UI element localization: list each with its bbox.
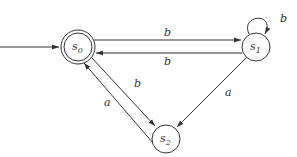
edge-s1-self-loop — [248, 18, 268, 34]
state-s0: s0 — [61, 30, 95, 64]
state-s2-subscript: 2 — [165, 138, 171, 147]
state-s0-subscript: 0 — [78, 46, 83, 55]
edge-s2-s0-label: a — [104, 96, 111, 109]
edge-s0-s1-label: b — [164, 26, 171, 39]
edge-s0-s2-label: b — [134, 77, 141, 90]
fsm-diagram: b b b b a a s0 s1 s2 — [0, 0, 297, 157]
edge-s1-s2 — [177, 57, 247, 127]
state-s1: s1 — [242, 33, 270, 61]
state-s1-subscript: 1 — [256, 46, 261, 55]
state-s2: s2 — [152, 125, 180, 153]
edge-s2-s0 — [84, 63, 153, 143]
edge-s0-s2 — [92, 58, 155, 126]
edge-s1-s0-label: b — [164, 55, 171, 68]
edge-s1-self-loop-label: b — [280, 12, 287, 25]
edge-s1-s2-label: a — [225, 86, 232, 99]
